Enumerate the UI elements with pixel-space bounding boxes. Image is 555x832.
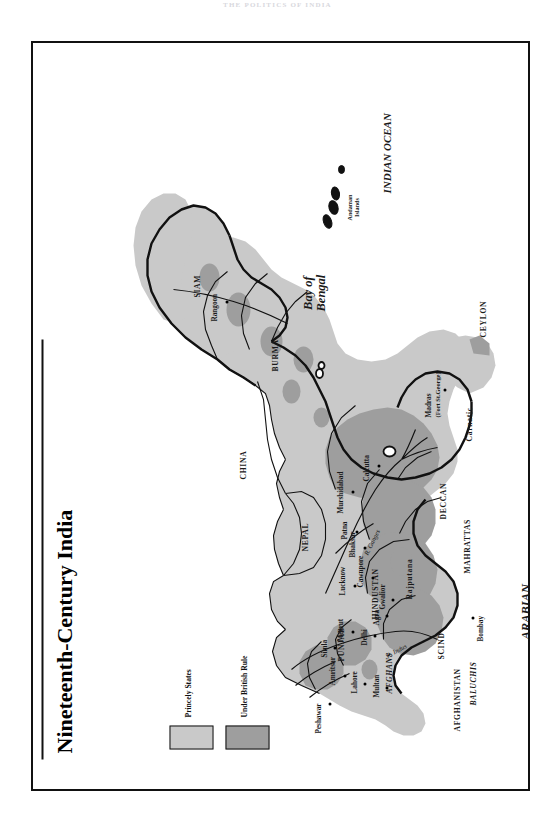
sea-label-bay-of-bengal-line1: Bay of: [301, 274, 314, 311]
under-british-rule-swatch: [225, 725, 269, 749]
map-title: Nineteenth-Century India: [51, 509, 77, 753]
city-dot-delhi: [373, 634, 376, 637]
city-label-agra: Agra: [373, 609, 381, 625]
city-dot-rangoon: [225, 300, 228, 303]
city-label-gwalior: Gwalior: [379, 584, 387, 609]
region-label-mahrattas: MAHRATTAS: [463, 518, 471, 573]
city-dot-gwalior: [391, 598, 394, 601]
city-dot-bombay: [471, 616, 474, 619]
island-label-andaman-line1: Andaman: [345, 181, 352, 233]
city-label-bombay: Bombay: [477, 615, 485, 641]
legend-label-under-british-rule: Under British Rule: [239, 655, 248, 717]
city-dot-lahore: [363, 682, 366, 685]
princely-states-swatch: [169, 725, 213, 749]
city-label-meerut: Meerut: [337, 618, 345, 641]
city-dot-cawnpore: [371, 576, 374, 579]
city-label-calcutta: Calcutta: [363, 455, 371, 481]
city-label-cawnpore: Cawnpore: [357, 555, 365, 587]
sea-label-indian-ocean: INDIAN OCEAN: [381, 113, 393, 193]
island-label-andaman: Andaman Islands: [345, 181, 359, 233]
city-dot-agra: [385, 614, 388, 617]
city-dot-meerut: [351, 630, 354, 633]
city-label-delhi: Delhi: [361, 629, 369, 645]
city-label-rangoon: Rangoon: [211, 293, 219, 321]
city-label-murshidabad: Murshidabad: [337, 471, 345, 513]
sea-label-bay-of-bengal-line2: Bengal: [314, 274, 327, 311]
region-label-carnatic: Carnatic: [465, 407, 473, 441]
city-dot-peshawar: [328, 702, 331, 705]
city-label-lahore: Lahore: [351, 671, 359, 693]
city-dot-multan: [385, 686, 388, 689]
running-head: THE POLITICS OF INDIA: [0, 1, 555, 9]
city-label-patna: Patna: [341, 521, 349, 539]
region-label-baluchis: BALUCHIS: [469, 661, 477, 705]
city-label-multan: Multan: [373, 674, 381, 697]
country-label-ceylon: CEYLON: [479, 300, 487, 337]
city-label-lucknow: Lucknow: [339, 566, 347, 595]
sea-label-arabian-sea-line1: ARABIAN: [519, 583, 530, 639]
country-label-siam: SIAM: [193, 274, 201, 297]
city-dot-patna: [355, 530, 358, 533]
city-sublabel-madras-fort-st-george: (Fort St.George): [434, 372, 441, 417]
country-label-china: CHINA: [239, 450, 247, 479]
city-dot-bhaksar: [363, 546, 366, 549]
rotated-map-canvas: AFGHANISTAN CHINA NEPAL BURMA SIAM CEYLO…: [33, 43, 528, 789]
country-label-burma: BURMA: [271, 339, 279, 371]
city-label-peshawar: Peshawar: [315, 703, 323, 733]
sea-label-arabian-sea: ARABIAN SEA: [519, 583, 530, 639]
title-rule: [41, 339, 43, 759]
legend-label-princely-states: Princely States: [183, 669, 192, 717]
sea-label-bay-of-bengal: Bay of Bengal: [301, 274, 327, 311]
city-dot-murshidabad: [351, 490, 354, 493]
city-label-madras: Madras: [425, 393, 433, 417]
region-label-deccan: DECCAN: [439, 482, 447, 519]
country-label-nepal: NEPAL: [301, 522, 309, 551]
city-label-amritsar: Amritsar: [329, 657, 337, 685]
city-label-simla: Simla: [321, 639, 329, 657]
city-dot-simla: [333, 646, 336, 649]
map-plate: AFGHANISTAN CHINA NEPAL BURMA SIAM CEYLO…: [31, 41, 530, 791]
region-label-rajputana: Rajputana: [405, 558, 413, 599]
region-label-scind: SCIND: [437, 632, 445, 659]
island-label-andaman-line2: Islands: [352, 181, 359, 233]
city-dot-calcutta: [377, 464, 380, 467]
city-dot-madras: [443, 388, 446, 391]
city-dot-amritsar: [343, 674, 346, 677]
city-label-bhaksar: Bhaksar: [349, 531, 357, 557]
country-label-afghanistan: AFGHANISTAN: [453, 668, 461, 731]
